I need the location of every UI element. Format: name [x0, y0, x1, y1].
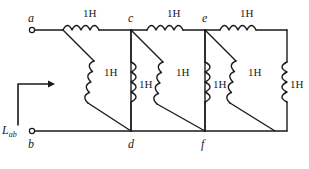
inductor-ac-coil — [63, 26, 99, 31]
circuit-svg — [0, 0, 309, 169]
inductor-cd-coil — [131, 62, 136, 102]
inductor-value-er: 1H — [240, 8, 253, 19]
inductor-ad-lead-top — [63, 30, 94, 61]
terminal-inductance-subscript: ab — [9, 130, 17, 139]
inductor-value-ef: 1H — [213, 79, 226, 90]
current-direction-arrow-head — [48, 81, 55, 88]
node-label-f: f — [201, 138, 204, 150]
inductor-ebr-lead-top — [205, 30, 236, 61]
inductor-cf-lead-bottom — [157, 104, 205, 131]
node-label-d: d — [128, 138, 134, 150]
terminal-a-circle — [29, 27, 34, 32]
circuit-diagram: a b c d e f Lab 1H 1H 1H 1H 1H 1H 1H 1H … — [0, 0, 309, 169]
inductor-value-ac: 1H — [83, 8, 96, 19]
inductor-value-cd: 1H — [139, 79, 152, 90]
inductor-ebr-coil — [227, 61, 236, 103]
inductor-er-coil — [220, 26, 256, 31]
inductor-rr-coil — [282, 62, 287, 102]
inductor-value-rr: 1H — [290, 79, 303, 90]
current-direction-arrow-shaft — [18, 84, 48, 125]
terminal-b-circle — [29, 128, 34, 133]
inductor-cf-coil — [154, 62, 163, 104]
inductor-ad-lead-bottom — [88, 103, 131, 131]
terminal-inductance-label: Lab — [2, 124, 17, 139]
node-label-a: a — [28, 12, 34, 24]
inductor-value-cf: 1H — [176, 67, 189, 78]
inductor-ef-coil — [205, 62, 210, 102]
inductor-value-ebr: 1H — [248, 67, 261, 78]
inductor-cf-lead-top — [131, 30, 163, 62]
terminal-inductance-symbol: L — [2, 123, 9, 137]
inductor-value-ce: 1H — [167, 8, 180, 19]
inductor-ebr-lead-bottom — [230, 103, 275, 131]
node-label-c: c — [128, 12, 133, 24]
inductor-ce-coil — [147, 26, 183, 31]
node-label-e: e — [202, 12, 207, 24]
node-label-b: b — [28, 138, 34, 150]
inductor-value-ad: 1H — [104, 67, 117, 78]
inductor-ad-coil — [85, 61, 94, 103]
